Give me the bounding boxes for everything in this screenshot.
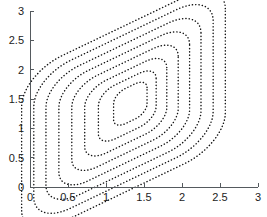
contour-1-innermost [114, 82, 147, 125]
y-tick-label: 0 [18, 181, 24, 193]
contour-plot-figure: 00.511.522.53 00.511.522.53 [0, 0, 267, 217]
x-tick-label: 1.5 [136, 191, 151, 203]
y-tick-label: 0.5 [9, 152, 24, 164]
contour-2 [98, 71, 156, 141]
x-tick-label: 2 [179, 191, 185, 203]
plot-canvas: 00.511.522.53 00.511.522.53 [0, 0, 267, 217]
axes-group [30, 11, 258, 187]
contour-4 [72, 45, 178, 170]
contour-6 [46, 19, 201, 200]
y-tick-label: 3 [18, 5, 24, 17]
x-tick-label: 0 [27, 191, 33, 203]
y-tick-label: 1 [18, 122, 24, 134]
x-tick-label: 2.5 [212, 191, 227, 203]
contour-5 [59, 32, 190, 185]
contour-curves-group [22, 0, 226, 217]
y-tick-label: 2 [18, 64, 24, 76]
axis-lines [30, 11, 258, 187]
contour-8-outermost [22, 0, 226, 217]
x-tick-label: 0.5 [60, 191, 75, 203]
contour-3 [85, 58, 167, 155]
y-tick-label: 2.5 [9, 34, 24, 46]
x-tick-label: 3 [255, 191, 261, 203]
y-tick-label: 1.5 [9, 93, 24, 105]
x-axis-tick-labels: 00.511.522.53 [27, 191, 261, 203]
x-tick-label: 1 [103, 191, 109, 203]
